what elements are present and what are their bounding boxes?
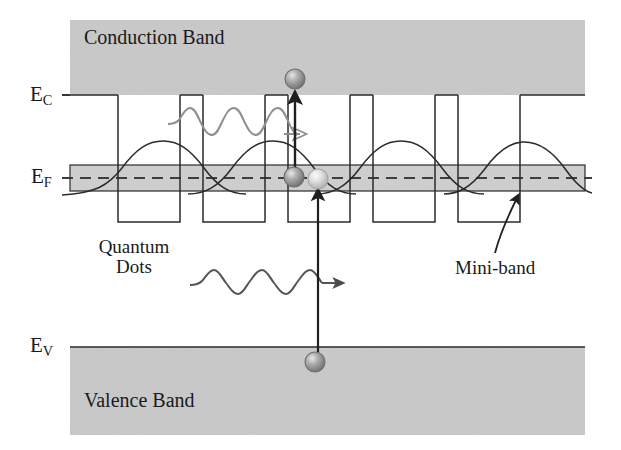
mini-band-label: Mini-band — [455, 258, 535, 278]
electron-in-miniband-left-icon — [284, 167, 304, 187]
energy-level-ec-label: EC — [30, 83, 52, 108]
quantum-dots-line-1: Quantum — [99, 236, 170, 257]
ef-symbol: E — [31, 164, 44, 188]
diagram-canvas — [0, 0, 621, 450]
mini-band-leader-line — [495, 198, 517, 253]
quantum-dots-line-2: Dots — [116, 256, 152, 277]
ev-symbol: E — [30, 333, 43, 357]
ev-subscript: V — [43, 343, 53, 359]
quantum-dot-well-structure — [62, 95, 585, 222]
band-diagram-figure: Conduction Band Valence Band EC EF EV Qu… — [0, 0, 621, 450]
conduction-band-label: Conduction Band — [84, 27, 225, 48]
ec-subscript: C — [43, 92, 53, 108]
valence-band-label: Valence Band — [84, 390, 195, 411]
electron-in-valence-band-icon — [305, 352, 325, 372]
electron-in-conduction-band-icon — [285, 69, 305, 89]
electron-in-miniband-right-icon — [308, 169, 328, 189]
photon-arrow-high-energy-icon — [168, 108, 300, 135]
ec-symbol: E — [30, 82, 43, 106]
energy-level-ev-label: EV — [30, 334, 53, 359]
quantum-dots-label: QuantumDots — [76, 237, 192, 277]
energy-level-ef-label: EF — [31, 165, 52, 190]
ef-subscript: F — [44, 174, 52, 190]
photon-arrow-low-energy-icon — [190, 270, 339, 294]
